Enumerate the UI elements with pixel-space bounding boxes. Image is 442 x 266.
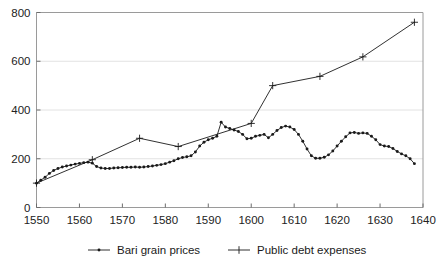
y-tick-marks [37, 13, 41, 208]
data-point [108, 167, 111, 170]
data-point [310, 154, 313, 157]
data-point [314, 157, 317, 160]
data-point [318, 157, 321, 160]
data-point [250, 137, 253, 140]
data-point [267, 136, 270, 139]
data-point [215, 135, 218, 138]
data-point [344, 135, 347, 138]
data-point [99, 167, 102, 170]
data-point [336, 145, 339, 148]
data-point [160, 163, 163, 166]
series-1 [35, 121, 416, 185]
data-point [306, 148, 309, 151]
data-point [61, 166, 64, 169]
data-point [211, 137, 214, 140]
data-point [379, 143, 382, 146]
data-point [168, 161, 171, 164]
data-point [136, 135, 143, 142]
data-point [409, 157, 412, 160]
x-tick-label: 1550 [24, 214, 50, 226]
data-point [69, 164, 72, 167]
data-point [370, 135, 373, 138]
data-point [271, 133, 274, 136]
data-point [147, 165, 150, 168]
data-point [361, 131, 364, 134]
legend-item-2[interactable]: Public debt expenses [228, 244, 367, 256]
data-point [387, 145, 390, 148]
dot-icon [98, 249, 101, 252]
data-point [44, 176, 47, 179]
data-point [224, 126, 227, 129]
data-point [400, 152, 403, 155]
chart-legend: Bari grain pricesPublic debt expenses [88, 244, 367, 256]
data-point [164, 162, 167, 165]
data-point [269, 82, 276, 89]
data-point [142, 166, 145, 169]
data-point [331, 150, 334, 153]
data-point [254, 135, 257, 138]
data-point [181, 156, 184, 159]
y-tick-label: 600 [11, 55, 30, 67]
data-point [349, 131, 352, 134]
data-point [207, 138, 210, 141]
x-tick-label: 1640 [410, 214, 436, 226]
data-point [194, 150, 197, 153]
data-point [353, 131, 356, 134]
x-tick-label: 1620 [324, 214, 350, 226]
data-point [413, 162, 416, 165]
data-point [357, 132, 360, 135]
data-point [248, 120, 255, 127]
data-point [151, 165, 154, 168]
y-tick-label: 800 [11, 7, 30, 19]
x-tick-label: 1590 [195, 214, 221, 226]
y-tick-label: 0 [24, 202, 30, 214]
data-point [134, 166, 137, 169]
data-point [366, 132, 369, 135]
data-point [323, 156, 326, 159]
data-point [245, 137, 248, 140]
data-point [33, 180, 40, 187]
series-2 [33, 19, 418, 187]
x-axis-tick-labels: 1550156015701580159016001610162016301640 [24, 214, 436, 226]
data-point [391, 147, 394, 150]
chart-container: 0200400600800 15501560157015801590160016… [0, 0, 442, 266]
data-point [404, 154, 407, 157]
data-point [172, 159, 175, 162]
data-point [327, 153, 330, 156]
data-point [203, 141, 206, 144]
y-tick-label: 200 [11, 153, 30, 165]
data-point [276, 129, 279, 132]
x-tick-label: 1600 [238, 214, 264, 226]
data-point [95, 165, 98, 168]
data-point [241, 133, 244, 136]
data-point [411, 19, 418, 26]
data-point [48, 172, 51, 175]
data-point [301, 140, 304, 143]
data-point [190, 154, 193, 157]
data-point [52, 169, 55, 172]
legend-label: Public debt expenses [257, 244, 367, 256]
data-point [138, 166, 141, 169]
data-point [316, 73, 323, 80]
y-tick-label: 400 [11, 104, 30, 116]
data-point [177, 157, 180, 160]
data-point [293, 128, 296, 131]
data-point [175, 143, 182, 150]
x-tick-label: 1560 [67, 214, 93, 226]
data-point [263, 133, 266, 136]
x-tick-label: 1630 [367, 214, 393, 226]
data-point [396, 150, 399, 153]
data-point [117, 166, 120, 169]
x-tick-marks [37, 204, 424, 208]
legend-item-1[interactable]: Bari grain prices [88, 244, 200, 256]
data-point [237, 130, 240, 133]
data-point [258, 134, 261, 137]
data-point [284, 125, 287, 128]
data-point [130, 166, 133, 169]
legend-label: Bari grain prices [117, 244, 200, 256]
data-point [155, 164, 158, 167]
data-series-layer [33, 19, 418, 187]
data-point [374, 138, 377, 141]
chart-plot: 0200400600800 15501560157015801590160016… [0, 0, 442, 266]
gridlines-group [37, 13, 424, 159]
